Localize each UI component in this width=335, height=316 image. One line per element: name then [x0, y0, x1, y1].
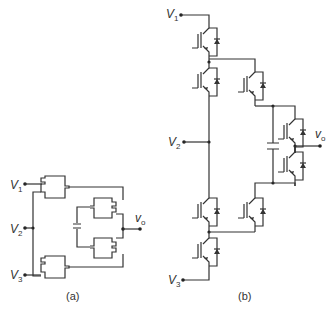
igbt-s2: [192, 62, 220, 102]
panel-b-v1-label: V1: [166, 7, 179, 23]
panel-a-vo-terminal: [138, 227, 142, 231]
panel-b-vo-terminal: [318, 144, 322, 148]
igbt-s5: [238, 66, 266, 106]
igbt-s4: [192, 232, 220, 272]
igbt-s6: [238, 192, 266, 232]
circuit-diagram: V1 V2 V3: [0, 0, 335, 316]
panel-a-caption: (a): [66, 290, 79, 302]
panel-b-capacitor: [267, 143, 279, 149]
igbt-s7: [278, 113, 306, 153]
panel-b-v3-terminal: [181, 278, 185, 282]
panel-a: V1 V2 V3: [10, 176, 146, 302]
panel-b-v3-label: V3: [168, 273, 181, 289]
panel-a-switch-top: [41, 176, 69, 198]
panel-b-v2-label: V2: [168, 135, 181, 151]
panel-a-switch-inner-bottom: [90, 238, 116, 258]
igbt-s8: [278, 146, 306, 186]
panel-b-caption: (b): [238, 290, 251, 302]
panel-b: V1 V2 V3: [166, 7, 326, 302]
igbt-s3: [192, 192, 220, 232]
panel-a-v1-label: V1: [10, 178, 23, 194]
igbt-s1: [192, 22, 220, 62]
panel-a-v2-label: V2: [10, 222, 23, 238]
panel-a-v3-label: V3: [10, 268, 23, 284]
panel-a-vo-label: vo: [135, 211, 146, 227]
panel-a-capacitor: [73, 224, 81, 228]
panel-a-switch-inner-top: [90, 198, 116, 218]
panel-b-vo-label: vo: [315, 127, 326, 143]
panel-a-switch-bottom: [41, 256, 69, 278]
